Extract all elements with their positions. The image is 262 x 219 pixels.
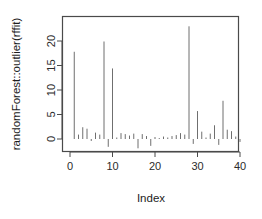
plot-canvas: 05101520 010203040 Index randomForest::o… — [0, 0, 262, 219]
y-axis-title: randomForest::outlier(rffit) — [10, 17, 22, 150]
y-tick-label: 15 — [45, 59, 57, 71]
plot-figure: 05101520 010203040 Index randomForest::o… — [0, 0, 262, 219]
x-tick-label: 30 — [191, 160, 203, 172]
x-axis-title: Index — [137, 192, 165, 204]
x-tick-label: 20 — [149, 160, 161, 172]
y-tick-label: 0 — [45, 136, 57, 142]
y-tick-label: 5 — [45, 111, 57, 117]
y-tick-label: 10 — [45, 84, 57, 96]
y-tick-label: 20 — [45, 35, 57, 47]
x-tick-label: 0 — [67, 160, 73, 172]
x-tick-label: 40 — [234, 160, 246, 172]
x-tick-label: 10 — [106, 160, 118, 172]
